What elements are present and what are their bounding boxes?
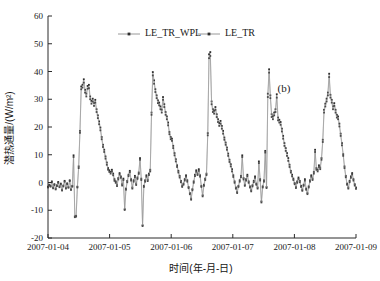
data-point [353,180,355,182]
data-point [281,131,283,133]
data-point [333,102,335,104]
data-point [61,190,63,192]
data-point [314,149,316,151]
data-point [195,171,197,173]
data-point [268,68,270,70]
data-point [305,189,307,191]
data-point [346,184,348,186]
data-point [147,180,149,182]
y-tick-label: 10 [34,150,44,160]
panel-label: (b) [278,82,291,95]
data-point [276,97,278,99]
data-point [184,180,186,182]
data-point [183,184,185,186]
data-point [172,147,174,149]
data-point [211,103,213,105]
data-point [220,123,222,125]
x-tick-label: 2007-01-07 [212,242,254,252]
data-point [125,189,127,191]
y-tick-label: 30 [34,94,44,104]
data-point [330,97,332,99]
data-point [280,124,282,126]
data-point [142,225,144,227]
data-point [102,146,104,148]
data-point [327,94,329,96]
data-point [322,141,324,143]
data-point [64,181,66,183]
data-point [124,209,126,211]
data-point [92,101,94,103]
data-point [244,185,246,187]
data-point [275,111,277,113]
data-point [193,182,195,184]
data-point [231,171,233,173]
data-point [152,74,154,76]
data-point [138,173,140,175]
latent-heat-flux-chart: -20-100102030405060 2007-01-042007-01-05… [0,0,380,281]
data-point [89,98,91,100]
data-point [88,84,90,86]
data-point [259,180,261,182]
data-point [121,185,123,187]
data-point [188,187,190,189]
data-point [295,187,297,189]
data-point [245,180,247,182]
data-point [203,185,205,187]
data-point [59,186,61,188]
data-point [103,151,105,153]
data-point [50,186,52,188]
data-point [129,171,131,173]
data-point [264,150,266,152]
data-point [140,179,142,181]
data-point [289,166,291,168]
data-point [53,184,55,186]
data-point [207,134,209,136]
data-point [336,117,338,119]
data-point [333,105,335,107]
data-point [328,76,330,78]
y-tick-label: 60 [34,11,44,21]
data-point [69,180,71,182]
data-point [83,78,85,80]
data-point [217,121,219,123]
data-point [179,177,181,179]
data-point [94,99,96,101]
data-point [78,167,80,169]
data-point [221,128,223,130]
data-point [98,123,100,125]
data-point [312,179,314,181]
data-point [115,182,117,184]
data-point [146,176,148,178]
data-point [300,186,302,188]
data-point [73,156,75,158]
data-point [70,189,72,191]
data-point [328,73,330,75]
data-point [229,161,231,163]
data-point [92,98,94,100]
data-point [111,171,113,173]
data-point [206,174,208,176]
data-point [161,112,163,114]
data-point [110,173,112,175]
data-point [215,109,217,111]
data-point [166,118,168,120]
data-point [220,120,222,122]
x-axis-title: 时间(年-月-日) [169,262,232,274]
data-point [277,119,279,121]
data-point [307,193,309,195]
data-point [130,180,132,182]
data-point [239,181,241,183]
data-point [120,177,122,179]
data-point [52,187,54,189]
data-point [225,144,227,146]
y-axis-title: 潜热通量/(W/m²) [3,91,15,164]
data-point [338,126,340,128]
data-point [331,102,333,104]
data-point [335,112,337,114]
data-point [82,87,84,89]
data-point [80,88,82,90]
data-point [324,106,326,108]
data-point [106,164,108,166]
data-point [151,114,153,116]
data-point [235,188,237,190]
